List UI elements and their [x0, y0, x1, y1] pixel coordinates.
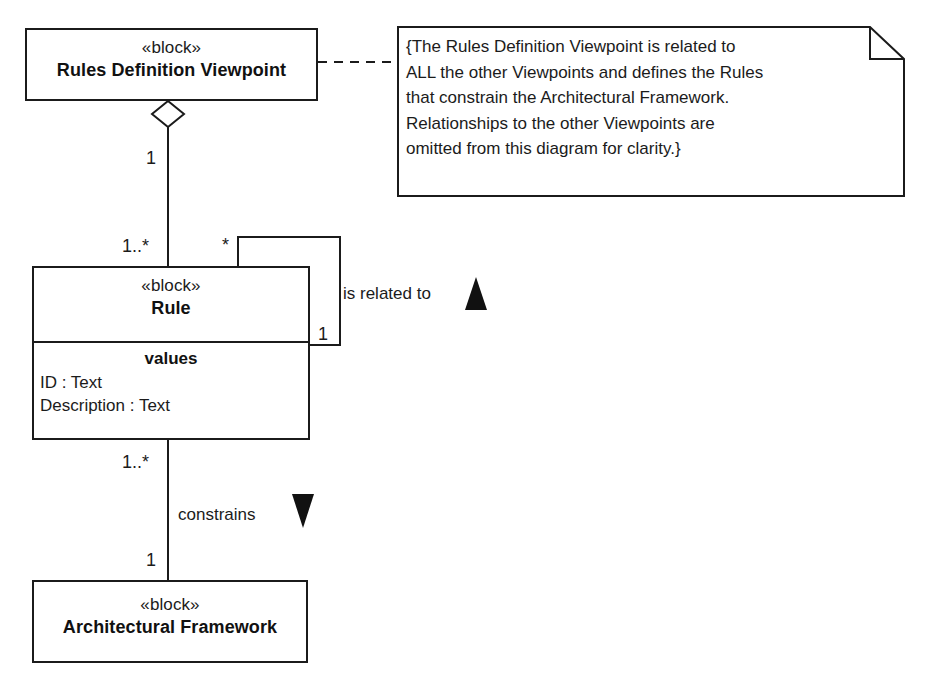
constrains-direction-triangle-icon	[292, 494, 314, 528]
block-header: «block» Rule	[34, 268, 308, 341]
note-comment: {The Rules Definition Viewpoint is relat…	[398, 27, 904, 196]
aggregation-diamond-icon	[152, 101, 184, 127]
block-rules-definition-viewpoint[interactable]: «block» Rules Definition Viewpoint	[25, 28, 318, 101]
constrains-association-label: constrains	[178, 505, 255, 525]
property-id: ID : Text	[34, 371, 308, 394]
constrains-source-multiplicity: 1..*	[122, 452, 149, 472]
note-text: {The Rules Definition Viewpoint is relat…	[406, 34, 886, 162]
self-association-start-multiplicity: 1	[318, 324, 328, 344]
aggregation-target-multiplicity: 1..*	[122, 236, 149, 256]
block-architectural-framework[interactable]: «block» Architectural Framework	[32, 580, 308, 663]
values-compartment-title: values	[34, 347, 308, 371]
is-related-to-direction-triangle-icon	[465, 277, 487, 310]
constrains-target-multiplicity: 1	[146, 550, 156, 570]
values-compartment: values ID : Text Description : Text	[34, 341, 308, 417]
self-association-label: is related to	[343, 284, 431, 304]
block-stereotype: «block»	[27, 37, 316, 58]
block-header: «block» Rules Definition Viewpoint	[27, 30, 316, 82]
block-rule[interactable]: «block» Rule values ID : Text Descriptio…	[32, 266, 310, 440]
property-description: Description : Text	[34, 394, 308, 417]
block-title: Rules Definition Viewpoint	[27, 58, 316, 82]
block-header: «block» Architectural Framework	[34, 582, 306, 639]
block-stereotype: «block»	[34, 275, 308, 296]
block-stereotype: «block»	[34, 594, 306, 615]
block-title: Rule	[34, 296, 308, 320]
aggregation-source-multiplicity: 1	[146, 148, 156, 168]
block-title: Architectural Framework	[34, 615, 306, 639]
block-definition-diagram: «block» Rules Definition Viewpoint «bloc…	[0, 0, 930, 689]
self-association-end-multiplicity: *	[222, 235, 229, 255]
